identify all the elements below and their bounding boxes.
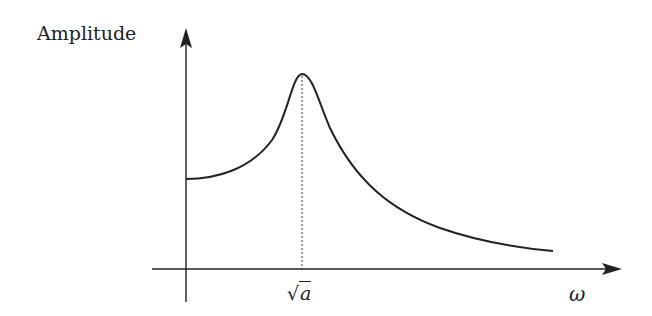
x-axis-label: ω xyxy=(569,282,585,306)
radical-sign: √ xyxy=(287,282,299,304)
y-axis-label: Amplitude xyxy=(37,22,136,44)
tick-value: a xyxy=(299,281,311,304)
amplitude-curve xyxy=(186,74,553,251)
resonance-diagram: Amplitude √a ω xyxy=(0,0,652,316)
x-tick-sqrt-a: √a xyxy=(287,282,311,304)
plot-canvas xyxy=(0,0,652,316)
